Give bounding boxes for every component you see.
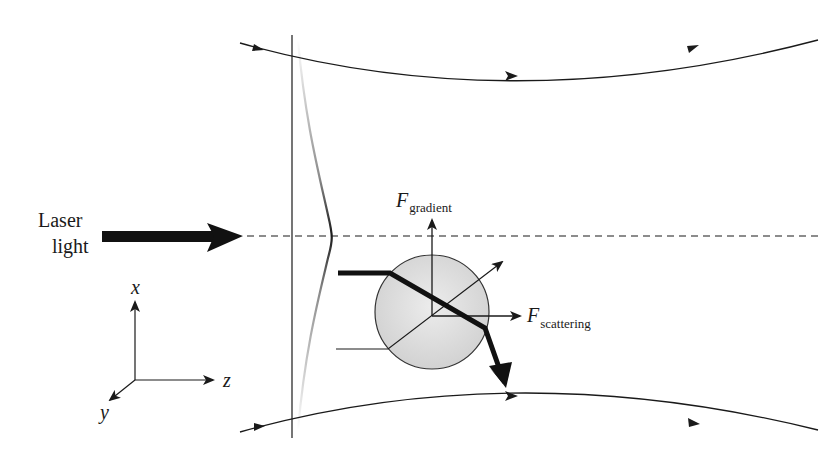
arrow-icon: [688, 418, 700, 427]
optical-trap-diagram: Laser light Fgradient Fscattering x z y: [0, 0, 835, 466]
gradient-force-label: Fgradient: [395, 189, 452, 215]
axis-label-x: x: [130, 276, 140, 298]
beam-envelope-bottom: [240, 391, 818, 432]
arrow-icon: [252, 44, 264, 51]
beam-envelope-top: [240, 40, 818, 81]
coordinate-axes: [110, 302, 213, 400]
arrow-icon: [505, 71, 518, 81]
gaussian-intensity-profile: [298, 40, 332, 430]
laser-input-arrow: [102, 223, 243, 252]
arrow-icon: [687, 45, 699, 53]
axis-label-z: z: [222, 369, 231, 391]
axis-label-y: y: [98, 401, 109, 424]
laser-label-line2: light: [52, 235, 89, 258]
laser-label-line1: Laser: [38, 209, 83, 231]
arrow-icon: [254, 423, 265, 431]
arrow-icon: [489, 362, 512, 388]
scattering-force-label: Fscattering: [526, 304, 591, 331]
